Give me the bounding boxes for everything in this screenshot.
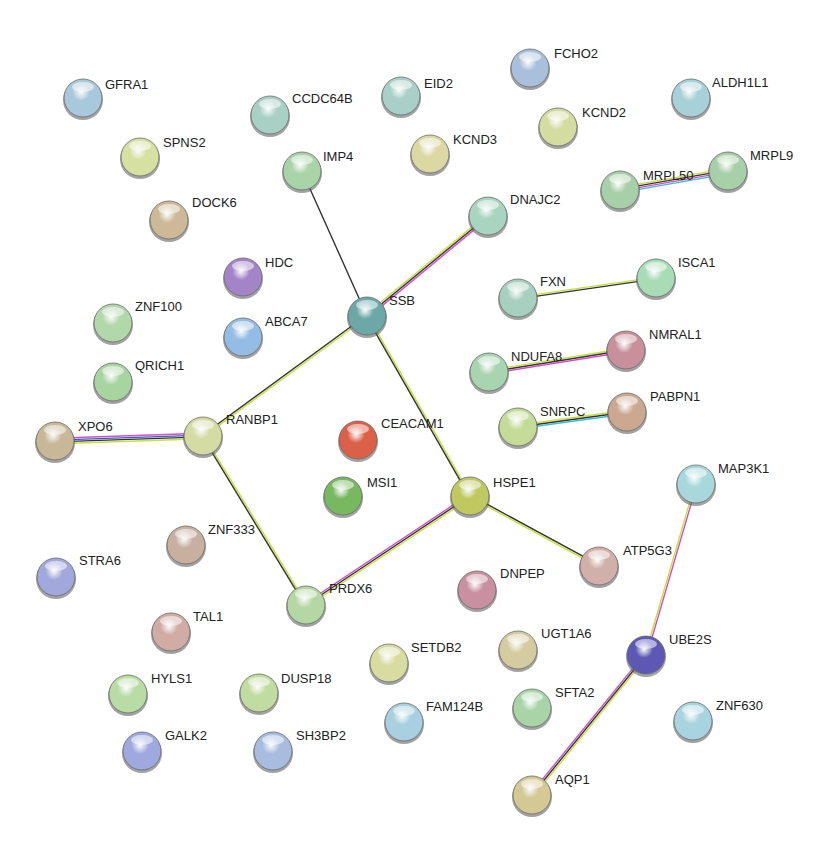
edge-map3k1-ube2s[interactable]: [645, 484, 697, 656]
sphere-highlight: [466, 574, 488, 584]
edge-strand: [368, 217, 489, 317]
node-stra6[interactable]: STRA6: [36, 553, 121, 599]
edge-strand: [368, 316, 471, 496]
sphere-highlight: [295, 589, 317, 599]
edge-fxn-isca1[interactable]: [518, 277, 656, 299]
node-atp5g3[interactable]: ATP5G3: [579, 543, 672, 588]
node-eid2[interactable]: EID2: [381, 76, 453, 118]
edge-ranbp1-prdx6[interactable]: [202, 436, 307, 606]
network-canvas[interactable]: GFRA1SPNS2DOCK6CCDC64BEID2IMP4KCND3FCHO2…: [0, 0, 822, 851]
node-znf333[interactable]: ZNF333: [166, 522, 255, 567]
node-prdx6[interactable]: PRDX6: [286, 581, 372, 627]
node-ugt1a6[interactable]: UGT1A6: [498, 626, 592, 672]
sphere-highlight: [507, 411, 529, 421]
node-qrich1[interactable]: QRICH1: [93, 358, 184, 404]
sphere-highlight: [102, 366, 124, 376]
sphere-highlight: [459, 480, 481, 490]
edge-hspe1-atp5g3[interactable]: [470, 495, 600, 567]
sphere-highlight: [547, 111, 569, 121]
node-ssb[interactable]: SSB: [347, 293, 415, 338]
node-hyls1[interactable]: HYLS1: [108, 671, 192, 716]
node-ceacam1[interactable]: CEACAM1: [338, 416, 444, 462]
node-label: MRPL50: [643, 168, 694, 183]
node-label: ABCA7: [265, 314, 308, 329]
node-mrpl9[interactable]: MRPL9: [708, 148, 793, 193]
sphere-highlight: [521, 692, 543, 702]
node-snrpc[interactable]: SNRPC: [498, 404, 586, 449]
nodes-layer: GFRA1SPNS2DOCK6CCDC64BEID2IMP4KCND3FCHO2…: [35, 46, 793, 817]
node-ube2s[interactable]: UBE2S: [626, 632, 712, 677]
node-map3k1[interactable]: MAP3K1: [676, 461, 769, 506]
node-msi1[interactable]: MSI1: [323, 475, 397, 518]
node-kcnd2[interactable]: KCND2: [538, 105, 626, 149]
node-aqp1[interactable]: AQP1: [512, 772, 590, 817]
sphere-highlight: [248, 677, 270, 687]
node-fxn[interactable]: FXN: [498, 274, 566, 320]
node-ndufa8[interactable]: NDUFA8: [469, 349, 562, 394]
edge-ssb-dnajc2[interactable]: [366, 215, 489, 318]
node-fam124b[interactable]: FAM124B: [384, 699, 483, 744]
sphere-highlight: [72, 82, 94, 92]
node-label: QRICH1: [135, 358, 184, 373]
node-hdc[interactable]: HDC: [223, 255, 293, 299]
sphere-highlight: [393, 706, 415, 716]
sphere-highlight: [609, 174, 631, 184]
sphere-highlight: [507, 282, 529, 292]
node-gfra1[interactable]: GFRA1: [63, 77, 148, 120]
node-spns2[interactable]: SPNS2: [120, 135, 206, 179]
node-ranbp1[interactable]: RANBP1: [183, 412, 278, 458]
node-abca7[interactable]: ABCA7: [223, 314, 308, 359]
node-label: SFTA2: [555, 685, 595, 700]
node-dnajc2[interactable]: DNAJC2: [468, 192, 561, 238]
edge-ssb-hspe1[interactable]: [366, 316, 471, 497]
node-dock6[interactable]: DOCK6: [149, 195, 237, 242]
node-pabpn1[interactable]: PABPN1: [607, 389, 700, 434]
sphere-highlight: [158, 204, 180, 214]
node-sfta2[interactable]: SFTA2: [512, 685, 595, 730]
sphere-highlight: [291, 155, 313, 165]
node-mrpl50[interactable]: MRPL50: [600, 168, 694, 212]
node-ccdc64b[interactable]: CCDC64B: [250, 91, 353, 137]
node-znf630[interactable]: ZNF630: [673, 698, 763, 743]
node-aldh1l1[interactable]: ALDH1L1: [671, 75, 768, 120]
node-label: XPO6: [78, 419, 113, 434]
node-kcnd3[interactable]: KCND3: [410, 132, 497, 176]
node-imp4[interactable]: IMP4: [282, 149, 353, 193]
node-label: PABPN1: [650, 389, 700, 404]
node-label: FCHO2: [554, 46, 598, 61]
sphere-highlight: [102, 307, 124, 317]
edge-strand: [366, 215, 487, 315]
edge-imp4-ssb[interactable]: [302, 171, 367, 316]
node-sh3bp2[interactable]: SH3BP2: [253, 728, 346, 773]
edge-strand: [647, 484, 697, 655]
node-hspe1[interactable]: HSPE1: [450, 475, 536, 518]
edge-strand: [204, 436, 307, 605]
sphere-highlight: [356, 300, 378, 310]
node-label: STRA6: [79, 553, 121, 568]
sphere-highlight: [588, 550, 610, 560]
node-label: TAL1: [193, 609, 223, 624]
edge-strand: [518, 277, 656, 297]
sphere-highlight: [117, 678, 139, 688]
edge-strand: [367, 216, 488, 316]
sphere-highlight: [507, 634, 529, 644]
sphere-highlight: [682, 705, 704, 715]
node-fcho2[interactable]: FCHO2: [510, 46, 598, 90]
node-galk2[interactable]: GALK2: [122, 728, 207, 773]
sphere-highlight: [232, 321, 254, 331]
node-tal1[interactable]: TAL1: [151, 609, 223, 654]
node-dusp18[interactable]: DUSP18: [239, 671, 332, 715]
node-label: ZNF333: [208, 522, 255, 537]
node-label: MAP3K1: [718, 461, 769, 476]
node-isca1[interactable]: ISCA1: [636, 255, 716, 300]
node-label: DNAJC2: [510, 192, 561, 207]
node-znf100[interactable]: ZNF100: [93, 299, 182, 345]
node-label: SSB: [389, 293, 415, 308]
node-setdb2[interactable]: SETDB2: [369, 640, 462, 685]
edge-xpo6-ranbp1[interactable]: [55, 433, 203, 443]
node-nmral1[interactable]: NMRAL1: [606, 327, 702, 372]
edge-strand: [366, 316, 469, 496]
node-label: ATP5G3: [623, 543, 672, 558]
node-dnpep[interactable]: DNPEP: [457, 566, 545, 612]
node-label: IMP4: [323, 149, 353, 164]
